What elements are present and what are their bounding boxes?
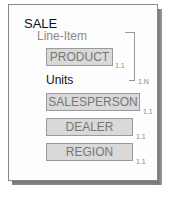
product-cardinality: 1.1	[115, 62, 125, 69]
component-salesperson: SALESPERSON	[46, 93, 140, 111]
component-dealer: DEALER	[46, 118, 133, 136]
region-cardinality: 1.1	[136, 158, 146, 165]
group-label: Line-Item	[37, 29, 87, 43]
attribute-units: Units	[46, 73, 73, 87]
group-cardinality: 1.N	[138, 78, 149, 85]
dealer-cardinality: 1.1	[136, 133, 146, 140]
group-bracket	[125, 32, 135, 81]
group-bracket-bottom	[129, 80, 135, 81]
component-region: REGION	[46, 143, 133, 161]
component-product: PRODUCT	[46, 48, 113, 66]
salesperson-cardinality: 1.1	[143, 108, 153, 115]
